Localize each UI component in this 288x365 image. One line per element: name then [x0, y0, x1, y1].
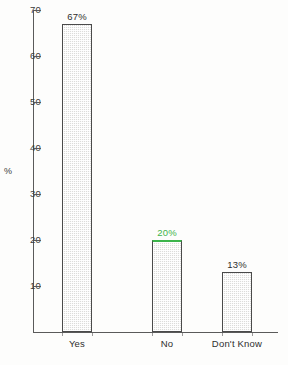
y-tick-group-20: 20: [0, 240, 41, 241]
x-tick-yes-left: [62, 333, 63, 336]
y-tick-mark-10: [34, 286, 41, 287]
x-tick-yes-right: [92, 333, 93, 336]
bar-value-label-dont-know: 13%: [212, 260, 262, 270]
y-tick-group-30: 30: [0, 194, 41, 195]
x-tick-no-left: [152, 333, 153, 336]
bar-value-label-no: 20%: [142, 228, 192, 238]
x-axis-line: [33, 332, 278, 333]
y-tick-mark-50: [34, 102, 41, 103]
bar-value-label-yes: 67%: [52, 12, 102, 22]
category-label-yes: Yes: [52, 339, 102, 349]
bar-yes: [62, 24, 92, 332]
x-tick-no-right: [182, 333, 183, 336]
x-tick-dont-know-left: [222, 333, 223, 336]
y-tick-group-60: 60: [0, 56, 41, 57]
bar-no: [152, 240, 182, 332]
category-label-no: No: [142, 339, 192, 349]
bar-chart: % 70 60 50 40 30 20 10 67% Yes 20% No: [0, 0, 288, 365]
x-tick-dont-know-right: [252, 333, 253, 336]
y-tick-mark-40: [34, 148, 41, 149]
bar-dont-know: [222, 272, 252, 332]
y-tick-mark-70: [34, 10, 41, 11]
y-tick-group-10: 10: [0, 286, 41, 287]
y-axis-title: %: [4, 167, 12, 176]
y-tick-group-50: 50: [0, 102, 41, 103]
y-tick-mark-30: [34, 194, 41, 195]
category-label-dont-know: Don't Know: [202, 339, 272, 349]
y-tick-group-40: 40: [0, 148, 41, 149]
y-tick-group-70: 70: [0, 10, 41, 11]
y-tick-mark-60: [34, 56, 41, 57]
y-tick-mark-20: [34, 240, 41, 241]
